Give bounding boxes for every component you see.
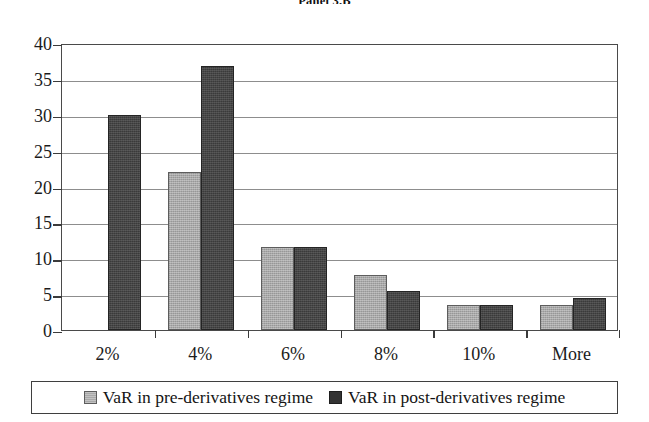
bar-8pct-dark bbox=[387, 291, 420, 330]
legend-item: VaR in post-derivatives regime bbox=[329, 389, 565, 407]
y-tick-mark bbox=[53, 189, 62, 190]
x-tick-mark bbox=[248, 330, 249, 338]
y-tick-label: 15 bbox=[34, 214, 52, 232]
bar-4pct-light bbox=[168, 172, 201, 330]
legend-label: VaR in post-derivatives regime bbox=[348, 389, 565, 407]
bar-10pct-light bbox=[447, 305, 480, 330]
figure-title: Panel 3.B bbox=[0, 0, 649, 4]
y-tick-label: 30 bbox=[34, 107, 52, 125]
bar-more-light bbox=[540, 305, 573, 330]
x-tick-label: 10% bbox=[462, 345, 495, 363]
legend-item: VaR in pre-derivatives regime bbox=[84, 389, 313, 407]
legend-swatch-dark bbox=[329, 391, 342, 404]
x-tick-mark bbox=[526, 330, 527, 338]
y-tick-label: 0 bbox=[43, 322, 52, 340]
x-tick-label: More bbox=[552, 345, 591, 363]
x-tick-mark bbox=[341, 330, 342, 338]
bar-6pct-dark bbox=[294, 247, 327, 330]
bar-2pct-dark bbox=[108, 115, 141, 330]
y-tick-label: 35 bbox=[34, 71, 52, 89]
bars-layer bbox=[62, 45, 617, 330]
bar-group bbox=[341, 45, 434, 330]
y-tick-label: 10 bbox=[34, 250, 52, 268]
y-tick-mark bbox=[53, 45, 62, 46]
y-tick-mark bbox=[53, 224, 62, 225]
y-tick-label: 40 bbox=[34, 35, 52, 53]
y-axis: 0510152025303540 bbox=[14, 38, 52, 330]
bar-group bbox=[248, 45, 341, 330]
x-tick-mark bbox=[619, 330, 620, 338]
legend-swatch-light bbox=[84, 391, 97, 404]
y-tick-mark bbox=[53, 81, 62, 82]
x-axis: 2%4%6%8%10%More bbox=[61, 345, 618, 371]
bar-group bbox=[62, 45, 155, 330]
bar-group bbox=[155, 45, 248, 330]
bar-group bbox=[526, 45, 619, 330]
x-tick-label: 6% bbox=[281, 345, 305, 363]
x-tick-label: 4% bbox=[188, 345, 212, 363]
y-tick-label: 5 bbox=[43, 286, 52, 304]
chart-plot-area: 0510152025303540 bbox=[0, 38, 649, 338]
bar-8pct-light bbox=[354, 275, 387, 330]
x-tick-label: 8% bbox=[374, 345, 398, 363]
y-tick-label: 25 bbox=[34, 143, 52, 161]
legend-label: VaR in pre-derivatives regime bbox=[103, 389, 313, 407]
bar-4pct-dark bbox=[201, 66, 234, 330]
bar-6pct-light bbox=[261, 247, 294, 330]
y-tick-mark bbox=[53, 332, 62, 333]
bar-group bbox=[433, 45, 526, 330]
gridline bbox=[62, 332, 617, 333]
chart-legend: VaR in pre-derivatives regimeVaR in post… bbox=[31, 381, 618, 414]
x-tick-mark bbox=[433, 330, 434, 338]
y-tick-mark bbox=[53, 153, 62, 154]
x-tick-label: 2% bbox=[95, 345, 119, 363]
y-tick-label: 20 bbox=[34, 179, 52, 197]
y-tick-mark bbox=[53, 117, 62, 118]
bar-more-dark bbox=[573, 298, 606, 330]
bar-10pct-dark bbox=[480, 305, 513, 330]
x-tick-mark bbox=[155, 330, 156, 338]
plot-frame bbox=[61, 44, 618, 331]
y-tick-mark bbox=[53, 296, 62, 297]
y-tick-mark bbox=[53, 260, 62, 261]
